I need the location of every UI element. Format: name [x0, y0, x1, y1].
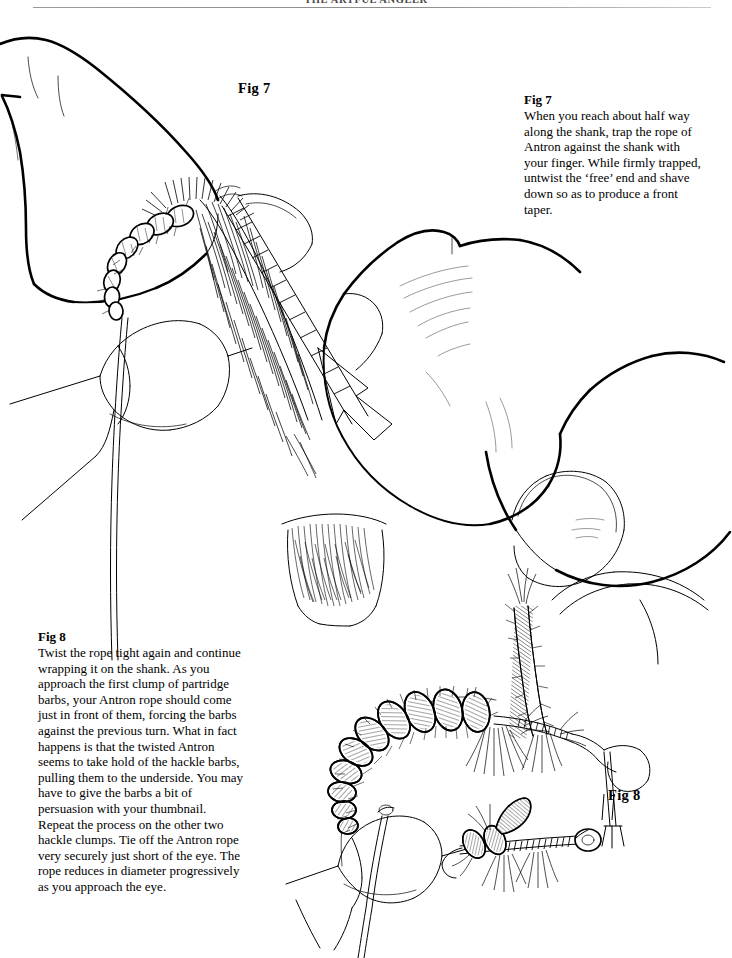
fig8-front-barbs	[524, 704, 586, 746]
fig7-caption-body: When you reach about half way along the …	[524, 108, 702, 217]
fig7-caption-block: Fig 7 When you reach about half way alon…	[524, 92, 702, 217]
fig8-illustration	[286, 568, 708, 958]
fig7-bobbin-upper	[10, 318, 252, 660]
fig8-caption-block: Fig 8 Twist the rope tight again and con…	[38, 629, 244, 895]
fig8-thumbnail	[552, 572, 708, 614]
running-header: THE ARTFUL ANGLER	[0, 0, 732, 4]
fig8-caption-label: Fig 8	[38, 629, 244, 644]
fig7-right-hand	[324, 230, 724, 525]
fig8-bobbin	[286, 805, 470, 958]
running-header-title: THE ARTFUL ANGLER	[0, 0, 732, 4]
fig8-inset-fly	[442, 794, 614, 892]
fig8-inset-legs	[482, 850, 558, 892]
fig7-hackle-tail	[282, 514, 386, 626]
fig8-body-barbs	[333, 686, 498, 834]
fig7-rope-fibres	[196, 202, 313, 456]
fig8-figure-tag: Fig 8	[608, 787, 641, 804]
fig7-segment-hairs	[97, 198, 189, 314]
fig7-skin-creases	[400, 266, 512, 452]
fig8-fly-body	[327, 686, 498, 866]
fig8-hackle-clump-2	[522, 733, 562, 773]
fig7-segment-chain	[101, 201, 196, 320]
fig7-antron-rope	[196, 196, 322, 478]
fig7-figure-tag: Fig 7	[238, 80, 271, 97]
fig7-caption-label: Fig 7	[524, 92, 702, 107]
fig7-arrow	[318, 348, 392, 440]
fig7-vise-jaws	[214, 186, 368, 424]
fig7-left-hand	[0, 38, 218, 302]
fig7-fly-body-segments	[97, 177, 254, 321]
fig7-hackle-fibres	[292, 524, 374, 606]
page-canvas: THE ARTFUL ANGLER .s { fill:none; stroke…	[0, 0, 732, 958]
fig7-barb-halo	[142, 177, 254, 220]
fig7-thumbnail	[486, 452, 730, 664]
fig7-vise-head	[238, 194, 313, 272]
fig8-segment-chain	[327, 686, 493, 835]
header-rule	[33, 7, 711, 8]
fig8-hackle-clump-1	[466, 726, 528, 776]
fig8-hook-and-vise	[494, 716, 650, 848]
fig8-antron-rope	[505, 568, 554, 738]
fig8-caption-body: Twist the rope tight again and continue …	[38, 645, 244, 895]
